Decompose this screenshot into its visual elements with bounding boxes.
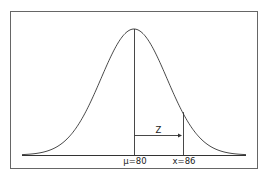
frame-border <box>11 12 258 169</box>
mean-label: μ=80 <box>123 156 146 166</box>
x-value-label: x=86 <box>173 156 196 166</box>
bell-curve <box>22 29 246 155</box>
normal-curve-diagram: Z μ=80 x=86 <box>0 0 268 180</box>
z-label: Z <box>156 125 162 135</box>
z-arrowhead-icon <box>178 134 182 138</box>
